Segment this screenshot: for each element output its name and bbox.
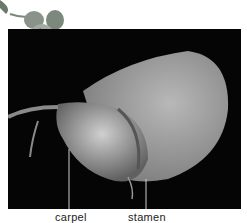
label-stamen: stamen — [128, 211, 166, 223]
flower-photo — [8, 29, 241, 209]
label-carpel: carpel — [55, 211, 87, 223]
